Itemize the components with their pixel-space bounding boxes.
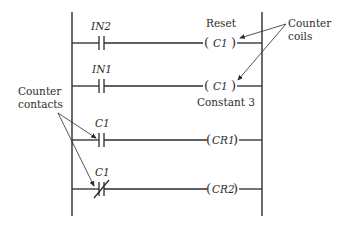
reset-label: Reset	[206, 17, 237, 29]
contact-label: IN1	[91, 63, 112, 75]
coil-label: CR2	[212, 183, 235, 195]
contact-label: IN2	[90, 20, 111, 32]
coil-close-paren: )	[231, 35, 236, 50]
rung-2: IN1 ( C1 ) Constant 3	[72, 63, 262, 108]
svg-text:): )	[231, 78, 236, 93]
counter-coils-annotation: Counter coils	[238, 17, 332, 80]
svg-text:(: (	[204, 78, 209, 93]
coil-open-paren: (	[204, 35, 209, 50]
arrow-icon	[58, 113, 94, 186]
rung-3: C1 ( CR1 )	[72, 117, 262, 147]
svg-text:contacts: contacts	[18, 98, 63, 110]
svg-text:(: (	[206, 132, 211, 147]
coil-label: C1	[213, 37, 228, 49]
svg-text:Counter: Counter	[18, 85, 62, 97]
svg-text:Counter: Counter	[288, 17, 332, 29]
svg-text:coils: coils	[288, 30, 312, 42]
coil-label: CR1	[212, 134, 235, 146]
svg-text:(: (	[206, 181, 211, 196]
arrow-icon	[240, 24, 286, 38]
svg-text:): )	[233, 181, 238, 196]
rung-1: IN2 ( C1 ) Reset	[72, 17, 262, 50]
contact-label: C1	[95, 117, 110, 129]
rung-4: C1 ( CR2 )	[72, 166, 262, 198]
contact-label: C1	[95, 166, 110, 178]
coil-label: C1	[213, 80, 228, 92]
arrow-icon	[58, 113, 96, 138]
counter-contacts-annotation: Counter contacts	[18, 85, 96, 186]
svg-text:): )	[233, 132, 238, 147]
ladder-diagram: IN2 ( C1 ) Reset IN1 ( C1 ) Constant 3 C…	[0, 0, 340, 228]
constant-label: Constant 3	[197, 96, 255, 108]
